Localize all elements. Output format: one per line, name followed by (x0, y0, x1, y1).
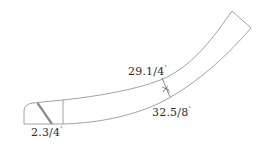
outer-length-label: 32.5/8" (152, 107, 191, 118)
diagram-canvas: 29.1/4" 32.5/8" 2.3/4" (0, 0, 262, 149)
inner-length-value: 29.1/4 (128, 65, 164, 78)
inch-mark: " (164, 64, 167, 70)
end-width-value: 2.3/4 (31, 126, 60, 139)
top-edge (33, 11, 232, 103)
inch-mark: " (60, 125, 63, 131)
outer-length-value: 32.5/8 (152, 106, 188, 119)
end-width-label: 2.3/4" (31, 127, 63, 138)
right-end-edge (232, 11, 251, 28)
width-measure-marker (162, 78, 170, 97)
left-end-edge (24, 103, 33, 124)
inner-length-label: 29.1/4" (128, 66, 167, 77)
diagonal-stripe (38, 103, 53, 124)
inch-mark: " (188, 105, 191, 111)
